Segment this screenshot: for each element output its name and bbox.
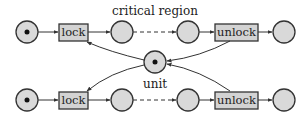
top-lock-label: lock <box>61 25 86 39</box>
unit-label: unit <box>143 77 167 91</box>
place-top-critical-in <box>111 21 133 43</box>
place-bottom-critical-in <box>111 89 133 111</box>
critical-region-label: critical region <box>112 4 198 18</box>
token-icon <box>25 98 30 103</box>
place-top-end <box>273 21 295 43</box>
place-bottom-critical-out <box>177 89 199 111</box>
petri-net-diagram: critical region lock unlock unit lock <box>0 0 307 121</box>
place-top-critical-out <box>177 21 199 43</box>
bottom-lock-label: lock <box>61 93 86 107</box>
token-icon <box>25 30 30 35</box>
top-unlock-label: unlock <box>217 25 257 39</box>
top-process: lock unlock <box>16 21 295 43</box>
token-icon <box>153 60 158 65</box>
bottom-unlock-label: unlock <box>217 93 257 107</box>
bottom-process: lock unlock <box>16 89 295 111</box>
place-bottom-end <box>273 89 295 111</box>
